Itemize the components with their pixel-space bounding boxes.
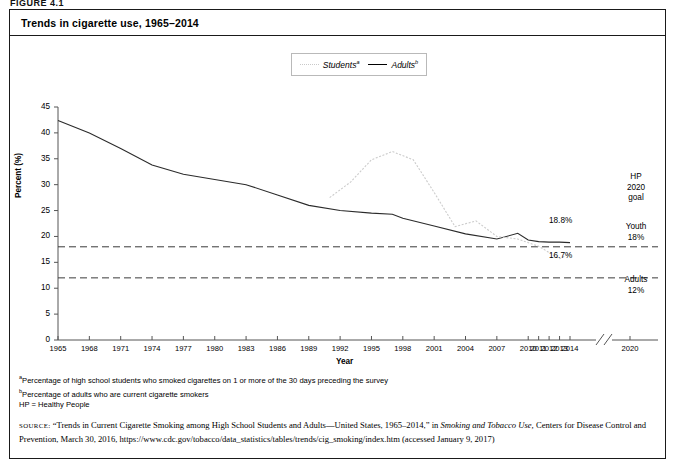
- y-tick-label-35: 35: [30, 154, 50, 163]
- x-tick-label-1986: 1986: [260, 344, 294, 353]
- x-tick-label-1980: 1980: [198, 344, 232, 353]
- y-tick-label-45: 45: [30, 102, 50, 111]
- source-line3: (accessed January 9, 2017): [402, 434, 495, 444]
- y-tick-label-20: 20: [30, 231, 50, 240]
- x-tick-label-2007: 2007: [480, 344, 514, 353]
- y-tick-label-10: 10: [30, 283, 50, 292]
- y-axis-title: Percent (%): [14, 153, 23, 198]
- x-tick-label-2004: 2004: [449, 344, 483, 353]
- y-tick-label-40: 40: [30, 128, 50, 137]
- x-axis-title: Year: [336, 357, 353, 366]
- footnote-b: bPercentage of adults who are current ci…: [19, 386, 388, 400]
- y-tick-label-25: 25: [30, 206, 50, 215]
- legend-label-students: Studentsa: [323, 59, 360, 70]
- x-tick-label-2014: 2014: [553, 344, 587, 353]
- figure-label: FIGURE 4.1: [10, 0, 64, 8]
- figure-footnotes: aPercentage of high school students who …: [19, 372, 388, 410]
- legend-swatch-students-icon: [300, 64, 319, 65]
- chart-legend: Studentsa Adultsb: [291, 53, 427, 76]
- legend-item-adults: Adultsb: [368, 59, 418, 70]
- y-tick-label-30: 30: [30, 180, 50, 189]
- figure-source: SOURCE: “Trends in Current Cigarette Smo…: [19, 419, 649, 445]
- x-tick-label-1989: 1989: [292, 344, 326, 353]
- x-tick-label-1992: 1992: [323, 344, 357, 353]
- legend-swatch-adults-icon: [368, 64, 387, 65]
- page-title: Trends in cigarette use, 1965–2014: [21, 17, 199, 29]
- legend-item-students: Studentsa: [300, 59, 360, 70]
- footnote-a: aPercentage of high school students who …: [19, 372, 388, 386]
- x-tick-label-2020: 2020: [613, 344, 647, 353]
- annotation-adults-goal: Adults 12%: [613, 275, 659, 296]
- figure-title-bar: Trends in cigarette use, 1965–2014: [10, 10, 665, 36]
- x-tick-label-1965: 1965: [41, 344, 75, 353]
- source-publication-title: Smoking and Tobacco Use,: [440, 420, 533, 430]
- source-line1a: “Trends in Current Cigarette Smoking amo…: [53, 420, 441, 430]
- x-tick-label-2001: 2001: [417, 344, 451, 353]
- x-tick-label-1977: 1977: [166, 344, 200, 353]
- data-label-adults-2014: 18.8%: [549, 216, 572, 225]
- footnote-hp: HP = Healthy People: [19, 399, 388, 410]
- x-tick-label-1974: 1974: [135, 344, 169, 353]
- annotation-youth-goal: Youth 18%: [613, 222, 659, 243]
- data-label-students-2014: 16.7%: [549, 251, 572, 260]
- y-tick-label-0: 0: [30, 335, 50, 344]
- y-tick-label-15: 15: [30, 257, 50, 266]
- figure-root: FIGURE 4.1 Trends in cigarette use, 1965…: [0, 0, 677, 469]
- annotation-hp-goal: HP 2020 goal: [613, 172, 659, 204]
- x-tick-label-1995: 1995: [354, 344, 388, 353]
- legend-label-adults: Adultsb: [391, 59, 418, 70]
- x-tick-label-1971: 1971: [104, 344, 138, 353]
- x-tick-label-1968: 1968: [72, 344, 106, 353]
- x-tick-label-1998: 1998: [386, 344, 420, 353]
- y-tick-label-5: 5: [30, 309, 50, 318]
- source-prefix: SOURCE:: [19, 422, 51, 429]
- x-tick-label-1983: 1983: [229, 344, 263, 353]
